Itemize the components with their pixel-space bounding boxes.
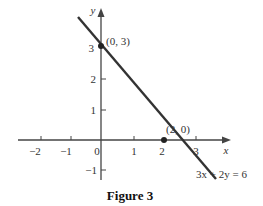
y-ticks [101, 79, 106, 170]
y-tick-label: 2 [91, 73, 97, 85]
x-axis-arrow-icon [222, 137, 231, 144]
point-label-y-intercept: (0, 3) [106, 35, 130, 48]
x-tick-label: 0 [94, 145, 100, 157]
y-axis-arrow-icon [98, 8, 105, 17]
x-tick-label: −2 [29, 145, 41, 157]
x-tick-label: −1 [60, 145, 72, 157]
x-axis-label: x [223, 144, 229, 156]
x-tick-label: 1 [131, 145, 137, 157]
point-x-intercept [161, 137, 167, 143]
point-y-intercept [98, 43, 104, 49]
y-tick-label: 3 [89, 42, 95, 54]
x-tick-label: 2 [159, 145, 165, 157]
figure-canvas: −2 −1 0 1 2 3 3 2 1 −1 x y (0, 3) (2, 0)… [0, 0, 263, 206]
y-tick-label: −1 [85, 164, 97, 176]
equation-label: 3x + 2y = 6 [196, 168, 247, 180]
figure-caption: Figure 3 [107, 188, 154, 203]
y-tick-label: 1 [91, 104, 97, 116]
y-axis-label: y [90, 4, 96, 16]
point-label-x-intercept: (2, 0) [166, 123, 190, 136]
